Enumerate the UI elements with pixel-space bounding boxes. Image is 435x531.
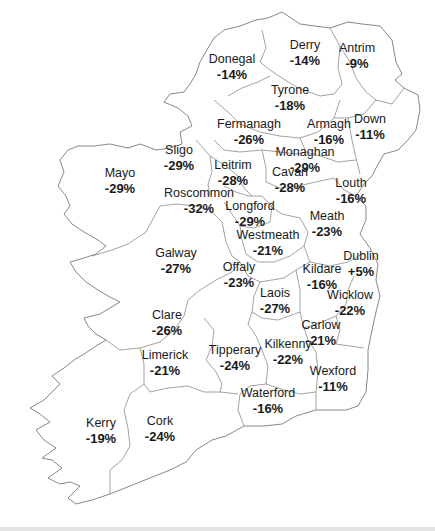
county-value: -26% (217, 132, 281, 147)
county-value: -26% (152, 323, 182, 338)
county-value: -22% (264, 352, 311, 367)
county-value: -29% (164, 158, 194, 173)
county-label-sligo: Sligo-29% (164, 143, 194, 173)
county-name: Clare (152, 308, 182, 323)
county-name: Leitrim (214, 158, 252, 173)
county-name: Kilkenny (264, 337, 311, 352)
county-label-kerry: Kerry-19% (86, 416, 116, 446)
county-name: Meath (310, 209, 345, 224)
county-label-down: Down-11% (354, 112, 386, 142)
county-value: -29% (105, 181, 136, 196)
county-value: -27% (260, 301, 290, 316)
county-label-wicklow: Wicklow-22% (327, 288, 373, 318)
county-name: Westmeath (237, 228, 300, 243)
county-value: -23% (223, 275, 255, 290)
county-name: Cork (145, 414, 175, 429)
county-name: Waterford (241, 386, 295, 401)
county-label-limerick: Limerick-21% (142, 348, 189, 378)
county-value: -21% (237, 243, 300, 258)
county-label-louth: Louth-16% (335, 176, 366, 206)
county-label-tyrone: Tyrone-18% (271, 83, 309, 113)
county-name: Carlow (302, 318, 341, 333)
county-label-laois: Laois-27% (260, 286, 290, 316)
county-name: Dublin (343, 249, 378, 264)
county-value: -24% (145, 429, 175, 444)
county-name: Armagh (307, 117, 351, 132)
county-label-donegal: Donegal-14% (209, 52, 256, 82)
county-name: Sligo (164, 143, 194, 158)
county-label-wexford: Wexford-11% (310, 364, 356, 394)
county-value: -21% (142, 363, 189, 378)
county-label-kilkenny: Kilkenny-22% (264, 337, 311, 367)
county-name: Kildare (303, 262, 342, 277)
county-name: Tyrone (271, 83, 309, 98)
county-value: -11% (354, 127, 386, 142)
county-value: -9% (339, 56, 375, 71)
county-name: Fermanagh (217, 117, 281, 132)
county-label-armagh: Armagh-16% (307, 117, 351, 147)
county-label-clare: Clare-26% (152, 308, 182, 338)
county-value: -32% (164, 201, 234, 216)
county-name: Derry (290, 38, 321, 53)
county-label-fermanagh: Fermanagh-26% (217, 117, 281, 147)
county-label-westmeath: Westmeath-21% (237, 228, 300, 258)
county-value: -16% (335, 191, 366, 206)
county-name: Laois (260, 286, 290, 301)
county-label-longford: Longford-29% (225, 199, 274, 229)
county-name: Offaly (223, 260, 255, 275)
county-name: Kerry (86, 416, 116, 431)
county-label-meath: Meath-23% (310, 209, 345, 239)
county-name: Monaghan (275, 145, 334, 160)
county-name: Cavan (272, 165, 308, 180)
county-label-leitrim: Leitrim-28% (214, 158, 252, 188)
county-label-cork: Cork-24% (145, 414, 175, 444)
county-value: -29% (225, 214, 274, 229)
county-value: -19% (86, 431, 116, 446)
county-label-offaly: Offaly-23% (223, 260, 255, 290)
county-value: -22% (327, 303, 373, 318)
bottom-edge-bar (0, 527, 435, 531)
county-label-antrim: Antrim-9% (339, 41, 375, 71)
county-label-derry: Derry-14% (290, 38, 321, 68)
county-name: Antrim (339, 41, 375, 56)
county-name: Wicklow (327, 288, 373, 303)
county-label-cavan: Cavan-28% (272, 165, 308, 195)
county-label-galway: Galway-27% (155, 246, 197, 276)
county-value: -14% (209, 67, 256, 82)
county-name: Limerick (142, 348, 189, 363)
county-name: Mayo (105, 166, 136, 181)
county-name: Roscommon (164, 186, 234, 201)
county-name: Louth (335, 176, 366, 191)
county-value: -27% (155, 261, 197, 276)
county-value: -11% (310, 379, 356, 394)
county-name: Down (354, 112, 386, 127)
county-value: -18% (271, 98, 309, 113)
county-name: Donegal (209, 52, 256, 67)
county-name: Longford (225, 199, 274, 214)
county-value: -16% (241, 401, 295, 416)
county-name: Wexford (310, 364, 356, 379)
county-value: -23% (310, 224, 345, 239)
county-label-roscommon: Roscommon-32% (164, 186, 234, 216)
county-value: +5% (343, 264, 378, 279)
county-value: -14% (290, 53, 321, 68)
county-label-dublin: Dublin+5% (343, 249, 378, 279)
county-label-mayo: Mayo-29% (105, 166, 136, 196)
county-value: -24% (209, 358, 261, 373)
county-label-waterford: Waterford-16% (241, 386, 295, 416)
county-value: -28% (272, 180, 308, 195)
county-name: Tipperary (209, 343, 261, 358)
county-label-tipperary: Tipperary-24% (209, 343, 261, 373)
county-name: Galway (155, 246, 197, 261)
